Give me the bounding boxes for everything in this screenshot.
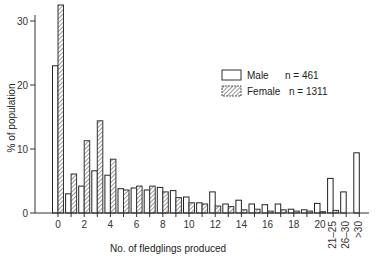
x-tick-label: 12 bbox=[210, 219, 222, 230]
bar-male-6 bbox=[131, 188, 137, 213]
bar-male-10 bbox=[184, 197, 190, 213]
bar-female-15 bbox=[255, 209, 261, 213]
bar-male->30 bbox=[354, 153, 360, 213]
x-tick-label: 10 bbox=[183, 219, 195, 230]
bar-female-8 bbox=[163, 192, 169, 213]
bar-female-0 bbox=[58, 5, 64, 213]
x-tick-label: 0 bbox=[55, 219, 61, 230]
bar-male-3 bbox=[92, 171, 98, 213]
bar-female-4 bbox=[110, 159, 116, 213]
bar-male-21–25 bbox=[328, 178, 334, 213]
legend: Male n = 461 Female n = 1311 bbox=[222, 70, 328, 97]
legend-swatch-female bbox=[222, 86, 241, 96]
bar-male-18 bbox=[288, 209, 294, 213]
bar-female-10 bbox=[189, 203, 195, 213]
x-tick-label: 6 bbox=[134, 219, 140, 230]
y-ticks: 0102030 bbox=[17, 16, 35, 219]
x-tick-label: 21–25 bbox=[327, 221, 338, 249]
bar-male-14 bbox=[236, 200, 242, 213]
x-tick-label: 20 bbox=[314, 219, 326, 230]
x-tick-label: 18 bbox=[288, 219, 300, 230]
bar-male-13 bbox=[223, 204, 229, 213]
bars-group bbox=[53, 5, 360, 213]
bar-male-0 bbox=[53, 66, 59, 213]
legend-n-male: n = 461 bbox=[285, 70, 319, 81]
bar-female-6 bbox=[137, 186, 143, 213]
bar-female-11 bbox=[202, 204, 208, 213]
bar-male-17 bbox=[275, 204, 281, 213]
x-tick-label: >30 bbox=[353, 221, 364, 238]
legend-swatch-male bbox=[222, 70, 241, 80]
bar-female-5 bbox=[124, 190, 130, 213]
bar-male-11 bbox=[197, 203, 203, 213]
bar-female-13 bbox=[228, 207, 234, 213]
legend-label-female: Female bbox=[247, 86, 281, 97]
bar-chart: 0102030 0246810121416182021–2526–30>30 %… bbox=[0, 0, 376, 264]
legend-label-male: Male bbox=[247, 70, 269, 81]
bar-male-7 bbox=[144, 190, 150, 213]
y-tick-label: 30 bbox=[17, 16, 29, 27]
bar-male-20 bbox=[315, 203, 321, 213]
y-tick-label: 20 bbox=[17, 80, 29, 91]
x-tick-label: 2 bbox=[81, 219, 87, 230]
x-tick-label: 26–30 bbox=[340, 221, 351, 249]
x-tick-label: 8 bbox=[160, 219, 166, 230]
bar-female-2 bbox=[84, 141, 90, 213]
bar-male-26–30 bbox=[341, 192, 347, 213]
bar-male-12 bbox=[210, 192, 216, 213]
x-tick-label: 4 bbox=[108, 219, 114, 230]
bar-male-5 bbox=[118, 189, 124, 213]
bar-male-8 bbox=[157, 187, 163, 213]
bar-female-3 bbox=[97, 121, 103, 213]
y-tick-label: 0 bbox=[22, 208, 28, 219]
bar-male-2 bbox=[79, 186, 85, 213]
bar-female-9 bbox=[176, 198, 182, 213]
bar-female-1 bbox=[71, 174, 77, 213]
bar-male-9 bbox=[170, 191, 176, 213]
bar-male-16 bbox=[262, 205, 268, 213]
bar-male-15 bbox=[249, 204, 255, 213]
x-tick-label: 14 bbox=[236, 219, 248, 230]
bar-male-1 bbox=[66, 194, 72, 213]
y-tick-label: 10 bbox=[17, 144, 29, 155]
bar-female-12 bbox=[215, 206, 221, 213]
x-axis-title: No. of fledglings produced bbox=[110, 243, 226, 254]
x-tick-label: 16 bbox=[262, 219, 274, 230]
bar-male-4 bbox=[105, 175, 111, 213]
legend-n-female: n = 1311 bbox=[289, 86, 328, 97]
bar-female-7 bbox=[150, 186, 156, 213]
y-axis-title: % of population bbox=[6, 84, 17, 153]
